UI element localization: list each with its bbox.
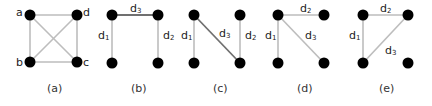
- node-bottom-left: [358, 58, 369, 69]
- node-b: [25, 57, 36, 68]
- node-bottom-right: [319, 58, 330, 69]
- label-d2: d2: [245, 29, 256, 42]
- node-top-right: [235, 10, 246, 21]
- node-label-a: a: [16, 6, 23, 19]
- node-bottom-left: [189, 58, 200, 69]
- node-c: [72, 57, 83, 68]
- label-d1: d1: [265, 29, 276, 42]
- panel-b: d3 d1 d2 (b): [98, 2, 174, 95]
- node-label-c: c: [83, 56, 89, 69]
- node-top-left: [358, 10, 369, 21]
- node-label-d: d: [83, 6, 90, 19]
- panel-c: d1 d3 d2 (c): [181, 10, 256, 96]
- label-d1: d1: [181, 29, 192, 42]
- node-bottom-left: [273, 58, 284, 69]
- node-top-right: [153, 10, 164, 21]
- node-bottom-left: [107, 58, 118, 69]
- caption-b: (b): [131, 82, 147, 95]
- caption-c: (c): [213, 82, 228, 95]
- node-d: [72, 10, 83, 21]
- node-a: [25, 10, 36, 21]
- label-d1: d1: [349, 29, 360, 42]
- panel-d: d2 d1 d3 (d): [265, 2, 330, 95]
- node-bottom-right: [403, 58, 414, 69]
- node-bottom-right: [153, 58, 164, 69]
- node-bottom-right: [235, 58, 246, 69]
- label-d1: d1: [98, 29, 109, 42]
- label-d3: d3: [385, 44, 396, 57]
- node-top-left: [107, 10, 118, 21]
- label-d2: d2: [163, 29, 174, 42]
- label-d3: d3: [130, 2, 141, 15]
- caption-d: (d): [297, 82, 313, 95]
- diagram-canvas: a d b c (a) d3 d1 d2 (b) d1 d3 d2 (c): [0, 0, 432, 106]
- label-d2: d2: [380, 2, 391, 15]
- label-d3: d3: [219, 27, 230, 40]
- caption-a: (a): [47, 82, 62, 95]
- label-d3: d3: [305, 29, 316, 42]
- node-label-b: b: [16, 56, 23, 69]
- node-top-left: [189, 10, 200, 21]
- edge-d3: [278, 15, 324, 63]
- panel-a: a d b c (a): [16, 6, 90, 95]
- node-top-right: [319, 10, 330, 21]
- panel-e: d2 d1 d3 (e): [349, 2, 414, 95]
- node-top-right: [403, 10, 414, 21]
- node-top-left: [273, 10, 284, 21]
- label-d2: d2: [300, 2, 311, 15]
- edge-d3: [194, 15, 240, 63]
- caption-e: (e): [379, 82, 394, 95]
